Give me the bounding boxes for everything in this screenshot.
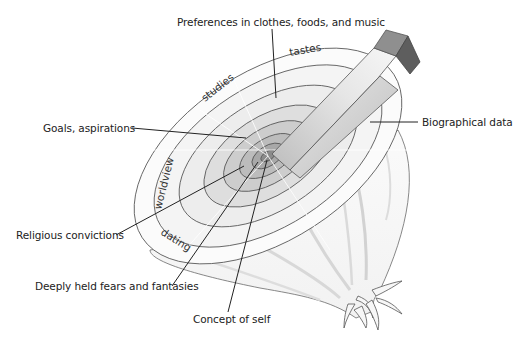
callout-biographical: Biographical data [422,116,513,128]
callout-fears: Deeply held fears and fantasies [35,280,199,292]
callout-self: Concept of self [193,313,270,325]
callout-goals: Goals, aspirations [43,122,135,134]
callout-preferences: Preferences in clothes, foods, and music [177,16,385,28]
callout-religious: Religious convictions [16,229,124,241]
onion-diagram: tastes studies worldview dating Preferen… [0,0,518,342]
